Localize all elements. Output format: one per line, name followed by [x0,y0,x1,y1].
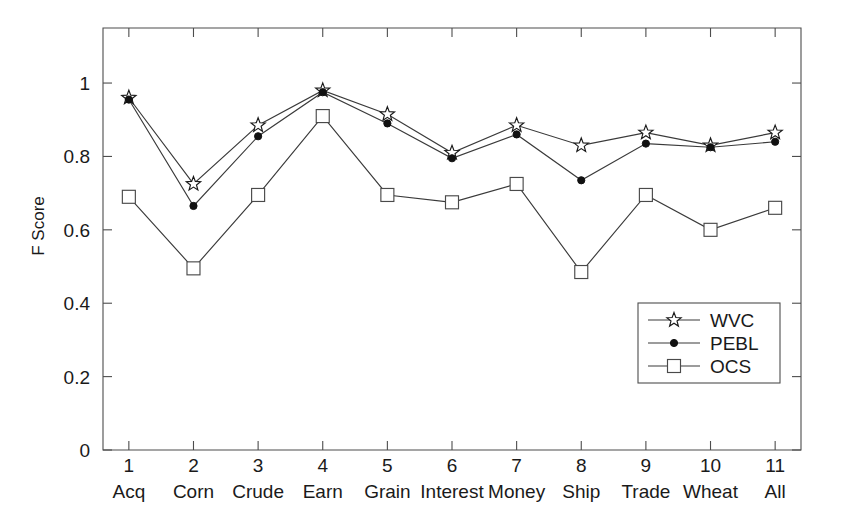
x-category-label: Acq [112,481,145,502]
star-marker [186,176,200,190]
square-marker [510,177,523,190]
square-marker [381,188,394,201]
axis-frame [103,28,801,450]
circle-marker [384,120,391,127]
x-tick-label: 7 [511,455,522,476]
circle-marker [255,133,262,140]
x-tick-label: 5 [382,455,393,476]
chart-legend: WVCPEBLOCS [638,303,780,383]
series-wvc [122,83,783,190]
x-tick-label: 4 [317,455,328,476]
square-marker [187,262,200,275]
circle-marker [670,339,677,346]
x-category-label: Interest [420,481,484,502]
circle-marker [513,131,520,138]
star-marker [639,125,653,139]
plot-border [103,28,801,450]
y-tick-label: 0.8 [64,146,90,167]
y-tick-label: 0 [79,440,90,461]
x-axis-category-labels: AcqCornCrudeEarnGrainInterestMoneyShipTr… [112,481,785,502]
star-marker [768,125,782,139]
x-tick-label: 6 [447,455,458,476]
legend-label: WVC [710,310,754,331]
square-marker [639,188,652,201]
square-marker [668,360,681,373]
square-marker [575,266,588,279]
square-marker [446,196,459,209]
x-category-label: Money [488,481,546,502]
chart-figure: 00.20.40.60.81 1234567891011 AcqCornCrud… [0,0,842,523]
circle-marker [125,96,132,103]
x-category-label: Crude [232,481,284,502]
circle-marker [190,202,197,209]
square-marker [252,188,265,201]
x-category-label: Trade [621,481,670,502]
circle-marker [578,177,585,184]
y-tick-label: 0.6 [64,220,90,241]
star-marker [380,107,394,121]
x-category-label: Ship [562,481,600,502]
circle-marker [642,140,649,147]
x-axis-ticks [129,28,775,450]
x-tick-label: 11 [765,455,785,476]
circle-marker [772,138,779,145]
square-marker [122,190,135,203]
circle-marker [319,89,326,96]
circle-marker [448,155,455,162]
series-polyline [129,90,775,184]
star-marker [510,118,524,132]
x-tick-label: 10 [700,455,721,476]
star-marker [574,138,588,152]
y-tick-label: 0.4 [64,293,91,314]
x-tick-label: 2 [188,455,199,476]
data-series-layer [122,83,783,279]
x-category-label: Corn [173,481,214,502]
x-axis-tick-labels: 1234567891011 [124,455,785,476]
x-tick-label: 3 [253,455,264,476]
f-score-line-chart: 00.20.40.60.81 1234567891011 AcqCornCrud… [0,0,842,523]
square-marker [769,201,782,214]
legend-label: PEBL [710,333,759,354]
y-axis-ticks [103,83,801,450]
x-category-label: Earn [303,481,343,502]
y-axis-title: F Score [29,196,48,256]
x-category-label: Grain [364,481,410,502]
series-ocs [122,110,781,279]
y-axis-tick-labels: 00.20.40.60.81 [64,73,91,461]
x-category-label: Wheat [683,481,739,502]
x-tick-label: 1 [124,455,135,476]
x-tick-label: 9 [641,455,652,476]
y-tick-label: 1 [79,73,90,94]
circle-marker [707,144,714,151]
legend-label: OCS [710,356,751,377]
x-category-label: All [765,481,786,502]
square-marker [316,110,329,123]
x-tick-label: 8 [576,455,587,476]
square-marker [704,223,717,236]
y-tick-label: 0.2 [64,367,90,388]
